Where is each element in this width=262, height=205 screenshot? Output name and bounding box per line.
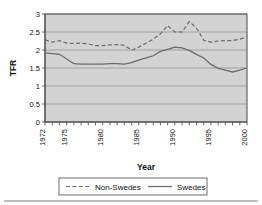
x-tick-label-1975: 1975 (60, 129, 69, 146)
x-tick-label-2000: 2000 (240, 129, 249, 146)
legend-label-non-swedes: Non-Swedes (95, 183, 141, 192)
y-tick-label-2.5: 2.5 (30, 28, 40, 37)
y-tick-label-0.5: 0.5 (30, 100, 40, 109)
x-tick-label-1980: 1980 (96, 129, 105, 146)
y-tick-label-1.5: 1.5 (30, 64, 40, 73)
x-tick-label-1990: 1990 (168, 129, 177, 146)
x-tick-label-1995: 1995 (204, 129, 213, 146)
x-axis-ticks (45, 122, 247, 126)
tfr-line-chart: 00.511.522.53 19721975198019851990199520… (0, 0, 262, 205)
x-tick-label-1972: 1972 (38, 129, 47, 146)
y-tick-label-3: 3 (36, 10, 40, 19)
y-tick-label-0: 0 (36, 118, 40, 127)
y-axis-ticks: 00.511.522.53 (30, 10, 45, 127)
x-axis-title: Year (137, 162, 156, 172)
legend-label-swedes: Swedes (177, 183, 205, 192)
x-axis-tick-labels: 1972197519801985199019952000 (38, 129, 249, 146)
y-tick-label-2: 2 (36, 46, 40, 55)
y-axis-title: TFR (8, 60, 18, 77)
y-tick-label-1: 1 (36, 82, 40, 91)
x-tick-label-1985: 1985 (132, 129, 141, 146)
figure-container: 00.511.522.53 19721975198019851990199520… (0, 0, 262, 205)
chart-legend: Non-Swedes Swedes (59, 178, 207, 195)
